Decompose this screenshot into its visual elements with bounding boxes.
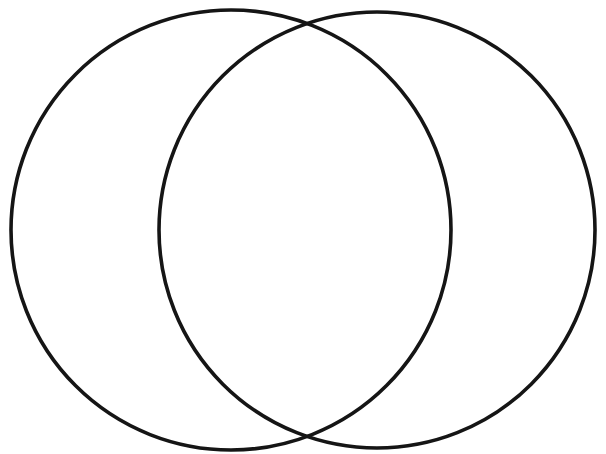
figure-background xyxy=(0,0,606,454)
venn-diagram: Two overlapping circles (blank Venn diag… xyxy=(0,0,606,454)
figure-canvas: Two overlapping circles (blank Venn diag… xyxy=(0,0,606,454)
